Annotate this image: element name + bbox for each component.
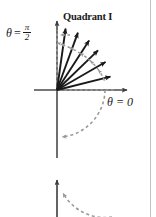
figure-page: Quadrant I θ = π 2 θ = 0 — [0, 0, 156, 217]
rotation-arc-fourth-quadrant — [62, 90, 105, 137]
pi-over-two-fraction: π 2 — [23, 23, 32, 43]
vectors-group — [57, 29, 110, 90]
fraction-denominator: 2 — [23, 33, 32, 42]
equals-symbol-vertical: = — [14, 27, 21, 39]
cropped-lower-figure — [57, 180, 112, 217]
theta-symbol-vertical: θ — [6, 27, 12, 39]
arc-seg-4 — [80, 54, 90, 62]
theta-zero-label: θ = 0 — [107, 96, 133, 108]
lower-rotation-arc — [63, 193, 112, 217]
quadrant-title: Quadrant I — [63, 12, 112, 23]
rotation-arc-quadrant-i — [57, 43, 104, 81]
theta-half-pi-label: θ = π 2 — [6, 23, 31, 43]
